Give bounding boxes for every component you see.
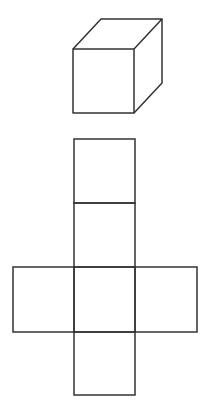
net-face-2 xyxy=(74,203,135,267)
net-face-center xyxy=(74,267,135,332)
net-face-left xyxy=(13,267,74,332)
net-face-1 xyxy=(74,139,135,203)
cube-front-face xyxy=(73,49,134,113)
net-face-right xyxy=(135,267,197,332)
cube-top-face xyxy=(73,19,162,49)
net-face-bottom xyxy=(74,332,135,395)
cube-drawing xyxy=(73,19,162,113)
cube-net xyxy=(13,139,197,395)
figure-canvas xyxy=(0,0,211,416)
